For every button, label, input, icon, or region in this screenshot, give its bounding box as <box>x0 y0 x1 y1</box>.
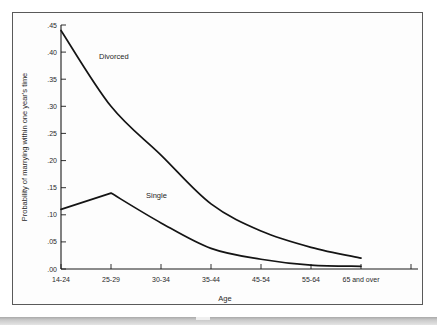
y-tick-label-9: .45 <box>47 22 57 29</box>
y-axis-ticks: .00 .05 .10 .15 .20 .25 .30 .35 .40 .45 <box>47 22 66 273</box>
y-tick-label-6: .30 <box>47 103 57 110</box>
series-line-divorced <box>61 30 361 258</box>
x-tick-label-2: 30-34 <box>152 276 170 283</box>
x-tick-label-0: 14-24 <box>52 276 70 283</box>
x-tick-label-1: 25-29 <box>102 276 120 283</box>
x-tick-label-5: 55-64 <box>302 276 320 283</box>
x-axis-title: Age <box>218 294 231 303</box>
series-annotation-single: Single <box>146 191 167 200</box>
x-tick-label-3: 35-44 <box>202 276 220 283</box>
y-tick-label-8: .40 <box>47 49 57 56</box>
y-axis-title: Probability of marrying within one year'… <box>20 73 29 222</box>
y-tick-label-5: .25 <box>47 130 57 137</box>
line-chart: .00 .05 .10 .15 .20 .25 .30 .35 .40 .45 … <box>13 13 424 306</box>
series-annotation-divorced: Divorced <box>99 52 129 61</box>
bottom-scroll-band <box>0 317 437 325</box>
y-tick-label-0: .00 <box>47 266 57 273</box>
y-tick-label-7: .35 <box>47 76 57 83</box>
y-tick-label-3: .15 <box>47 184 57 191</box>
bottom-band-notch <box>196 317 210 320</box>
y-tick-label-1: .05 <box>47 238 57 245</box>
chart-figure: .00 .05 .10 .15 .20 .25 .30 .35 .40 .45 … <box>12 12 423 305</box>
x-tick-label-4: 45-54 <box>252 276 270 283</box>
y-tick-label-2: .10 <box>47 211 57 218</box>
y-tick-label-4: .20 <box>47 157 57 164</box>
x-tick-label-6: 65 and over <box>343 276 381 283</box>
